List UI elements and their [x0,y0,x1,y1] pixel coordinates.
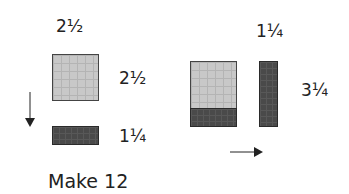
left-bar-side-label: 1¼ [119,126,146,146]
right-side-label: 3¼ [301,80,328,100]
left-square-tile [52,54,99,101]
left-square-side-label: 2½ [119,68,146,88]
right-thin-bar-tile [259,61,278,127]
left-top-label: 2½ [56,16,83,36]
caption: Make 12 [48,170,128,192]
right-arrow-icon [230,146,266,158]
right-composite-dark [190,108,237,127]
left-bar-tile [52,126,99,145]
down-arrow-icon [24,92,36,128]
right-composite-light [190,61,237,109]
right-top-label: 1¼ [256,21,283,41]
